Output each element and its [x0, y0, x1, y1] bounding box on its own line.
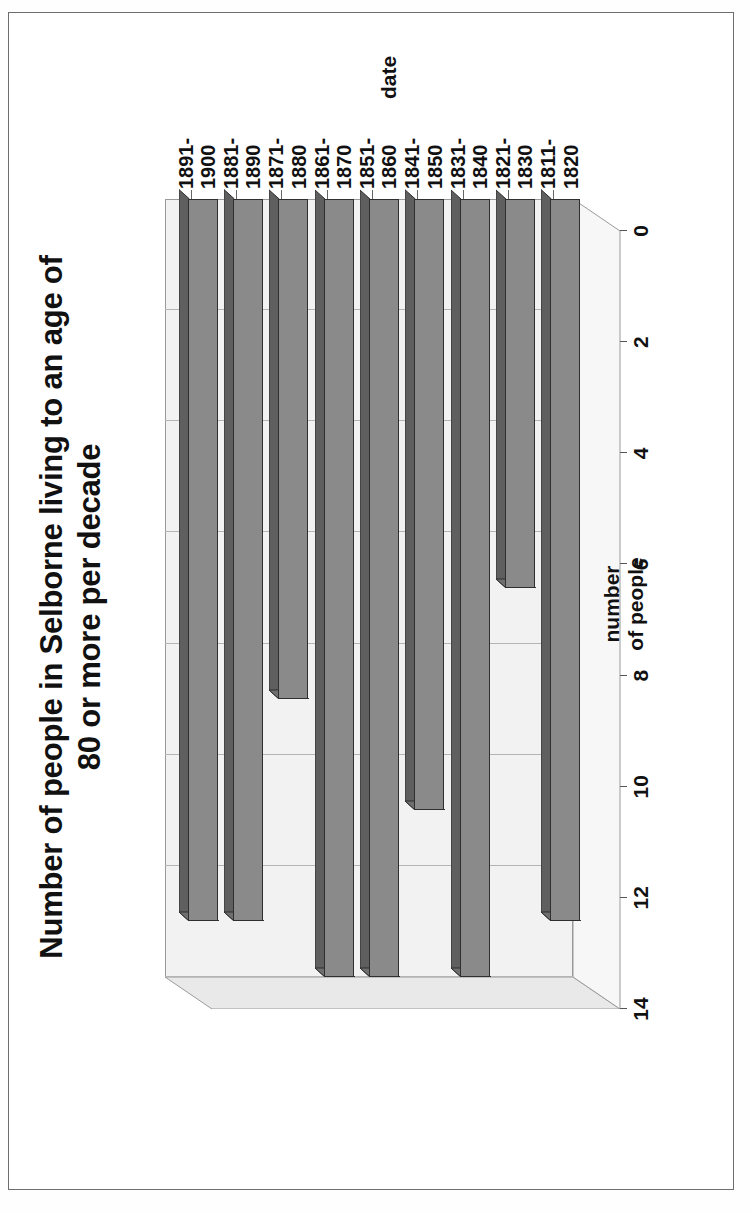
bar-1811-1820[interactable] — [541, 199, 571, 921]
plot-area: 02468101214 — [165, 199, 620, 1009]
rotated-chart-wrapper: Number of people in Selborne living to a… — [25, 27, 725, 1187]
category-tick-1881-1890 — [236, 190, 237, 199]
bar-1841-1850[interactable] — [405, 199, 435, 810]
category-label-line-1: 1891- — [175, 137, 197, 188]
category-tick-1811-1820 — [553, 190, 554, 199]
category-label-1851-1860: 1851-1860 — [356, 137, 401, 188]
category-label-line-2: 1830 — [514, 137, 536, 188]
category-label-line-1: 1851- — [356, 137, 378, 188]
category-tick-1821-1830 — [508, 190, 509, 199]
category-label-1871-1880: 1871-1880 — [265, 137, 310, 188]
category-label-line-2: 1820 — [560, 138, 582, 188]
category-tick-1861-1870 — [327, 190, 328, 199]
bar-front-face — [233, 199, 263, 921]
category-label-line-2: 1900 — [197, 137, 219, 188]
category-tick-1831-1840 — [463, 190, 464, 199]
category-label-1831-1840: 1831-1840 — [447, 137, 492, 188]
category-label-1861-1870: 1861-1870 — [311, 137, 356, 188]
bar-chart: Number of people in Selborne living to a… — [25, 27, 725, 1187]
category-tick-1891-1900 — [191, 190, 192, 199]
category-label-line-2: 1860 — [378, 137, 400, 188]
category-label-line-1: 1871- — [265, 137, 287, 188]
scanned-page: Number of people in Selborne living to a… — [0, 0, 750, 1213]
category-label-line-1: 1831- — [447, 137, 469, 188]
bar-front-face — [324, 199, 354, 977]
value-axis-title-line-1: number — [600, 199, 624, 1009]
category-label-1881-1890: 1881-1890 — [220, 137, 265, 188]
category-label-1841-1850: 1841-1850 — [401, 137, 446, 188]
bar-front-face — [188, 199, 218, 921]
bar-front-face — [550, 199, 580, 921]
plot-left-side-wall — [165, 976, 620, 1009]
bar-1861-1870[interactable] — [315, 199, 345, 977]
category-label-line-2: 1850 — [424, 137, 446, 188]
category-label-line-2: 1880 — [288, 137, 310, 188]
bar-1891-1900[interactable] — [179, 199, 209, 921]
bar-1851-1860[interactable] — [360, 199, 390, 977]
category-tick-1851-1860 — [372, 190, 373, 199]
category-label-line-1: 1881- — [220, 137, 242, 188]
bar-1871-1880[interactable] — [269, 199, 299, 699]
bar-1881-1890[interactable] — [224, 199, 254, 921]
category-label-1821-1830: 1821-1830 — [492, 137, 537, 188]
value-axis-title-line-2: of people — [624, 199, 648, 1009]
category-tick-1871-1880 — [281, 190, 282, 199]
category-label-line-2: 1870 — [333, 137, 355, 188]
chart-title-line-2: 80 or more per decade — [71, 27, 109, 1187]
bar-front-face — [460, 199, 490, 977]
bar-front-face — [414, 199, 444, 810]
bar-1831-1840[interactable] — [451, 199, 481, 977]
category-label-line-2: 1840 — [469, 137, 491, 188]
bar-front-face — [369, 199, 399, 977]
category-label-1891-1900: 1891-1900 — [175, 137, 220, 188]
bar-front-face — [505, 199, 535, 588]
category-label-line-1: 1821- — [492, 137, 514, 188]
category-tick-1841-1850 — [417, 190, 418, 199]
chart-title: Number of people in Selborne living to a… — [33, 27, 109, 1187]
category-label-line-1: 1861- — [311, 137, 333, 188]
category-axis-title: date — [377, 55, 401, 98]
category-label-line-1: 1841- — [401, 137, 423, 188]
bar-front-face — [278, 199, 308, 699]
value-axis-title: number of people — [600, 199, 648, 1009]
chart-title-line-1: Number of people in Selborne living to a… — [34, 255, 69, 958]
category-label-1811-1820: 1811-1820 — [537, 138, 582, 188]
category-label-line-1: 1811- — [537, 138, 559, 188]
category-label-line-2: 1890 — [242, 137, 264, 188]
bar-1821-1830[interactable] — [496, 199, 526, 588]
